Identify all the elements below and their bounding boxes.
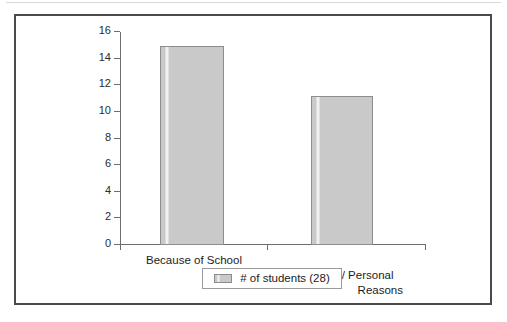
x-axis-tick [425, 244, 426, 250]
y-axis-tick-group: 2 [120, 217, 121, 218]
y-axis-tick-group: 6 [120, 164, 121, 165]
legend-entry-label: # of students (28) [240, 272, 330, 285]
y-axis-tick [114, 111, 120, 112]
y-axis-tick-group: 12 [120, 84, 121, 85]
y-axis-tick [114, 138, 120, 139]
page-top-rule [6, 2, 501, 3]
y-axis-line [120, 32, 121, 245]
y-axis-tick-group: 8 [120, 138, 121, 139]
y-axis-tick-label: 14 [99, 51, 111, 64]
y-axis-tick-label: 12 [99, 77, 111, 90]
bar-because-of-school[interactable] [160, 46, 224, 245]
y-axis-tick [114, 217, 120, 218]
x-axis-tick [120, 244, 121, 250]
y-axis-tick-label: 10 [99, 104, 111, 117]
y-axis-tick-group: 4 [120, 191, 121, 192]
x-axis-category-label-0: Because of School [130, 253, 258, 268]
chart-legend: # of students (28) [202, 268, 342, 289]
y-axis-tick [114, 84, 120, 85]
y-axis-tick-label: 6 [105, 157, 111, 170]
y-axis-tick [114, 58, 120, 59]
x-axis-tick [267, 244, 268, 250]
y-axis-tick-group: 16 [120, 31, 121, 32]
y-axis-tick-label: 2 [105, 210, 111, 223]
y-axis-tick [114, 164, 120, 165]
y-axis-tick-label: 16 [99, 24, 111, 37]
y-axis-tick-label: 4 [105, 184, 111, 197]
y-axis-tick [114, 31, 120, 32]
plot-area: 0 2 4 6 8 10 12 14 [120, 31, 431, 246]
y-axis-tick-group: 14 [120, 58, 121, 59]
legend-swatch-icon [214, 274, 232, 283]
y-axis-tick-group: 10 [120, 111, 121, 112]
chart-frame: 0 2 4 6 8 10 12 14 [14, 14, 492, 305]
bar-financial-personal-reasons[interactable] [311, 96, 373, 245]
y-axis-tick-label: 0 [105, 237, 111, 250]
y-axis-tick-label: 8 [105, 131, 111, 144]
y-axis-tick [114, 191, 120, 192]
